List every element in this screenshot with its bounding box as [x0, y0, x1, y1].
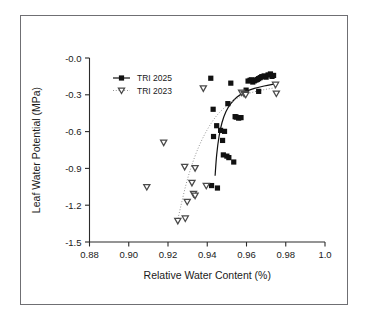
data-point-triangle — [192, 193, 198, 199]
y-tick-labels: -0.0-0.3-0.6-0.9-1.2-1.5 — [65, 53, 81, 248]
data-point-triangle — [272, 82, 278, 88]
legend-marker-triangle — [118, 88, 124, 94]
legend-marker-square — [119, 75, 124, 80]
x-tick-label: 0.90 — [120, 249, 139, 260]
legend: TRI 2025TRI 2023 — [113, 73, 172, 96]
legend-label-2: TRI 2023 — [137, 86, 172, 96]
x-tick-label: 0.98 — [277, 249, 296, 260]
data-point-square — [256, 89, 261, 94]
data-point-triangle — [161, 140, 167, 146]
data-point-square — [222, 129, 227, 134]
x-axis-title: Relative Water Content (%) — [144, 269, 271, 281]
data-point-square — [225, 101, 230, 106]
data-point-square — [231, 159, 236, 164]
scatter-plot: 0.880.900.920.940.960.981.0 -0.0-0.3-0.6… — [0, 0, 365, 323]
data-point-square — [208, 76, 213, 81]
x-tick-label: 0.94 — [198, 249, 217, 260]
data-point-triangle — [182, 164, 188, 170]
x-tick-label: 0.96 — [237, 249, 256, 260]
data-point-square — [220, 138, 225, 143]
data-point-square — [215, 185, 220, 190]
x-tick-label: 0.88 — [80, 249, 99, 260]
data-point-square — [271, 73, 276, 78]
x-tick-label: 0.92 — [159, 249, 178, 260]
data-point-triangle — [189, 180, 195, 186]
data-point-square — [214, 123, 219, 128]
y-tick-label: -1.2 — [65, 200, 81, 211]
data-point-square — [211, 107, 216, 112]
legend-label-1: TRI 2025 — [137, 73, 172, 83]
data-point-square — [211, 134, 216, 139]
y-tick-label: -0.0 — [65, 53, 81, 64]
data-point-triangle — [273, 91, 279, 97]
data-point-triangle — [192, 166, 198, 172]
data-point-square — [228, 81, 233, 86]
y-tick-label: -0.6 — [65, 126, 81, 137]
data-point-square — [226, 155, 231, 160]
data-point-triangle — [182, 216, 188, 222]
y-tick-label: -0.9 — [65, 163, 81, 174]
data-point-triangle — [200, 86, 206, 92]
x-tick-label: 1.0 — [318, 249, 331, 260]
y-tick-label: -1.5 — [65, 237, 81, 248]
y-tick-label: -0.3 — [65, 89, 81, 100]
data-point-triangle — [203, 183, 209, 189]
figure-container: 0.880.900.920.940.960.981.0 -0.0-0.3-0.6… — [0, 0, 365, 323]
data-point-square — [238, 115, 243, 120]
data-point-triangle — [175, 218, 181, 224]
data-point-triangle — [144, 185, 150, 191]
x-tick-labels: 0.880.900.920.940.960.981.0 — [80, 249, 331, 260]
y-axis-title: Leaf Water Potential (MPa) — [30, 87, 42, 213]
data-point-triangle — [184, 199, 190, 205]
